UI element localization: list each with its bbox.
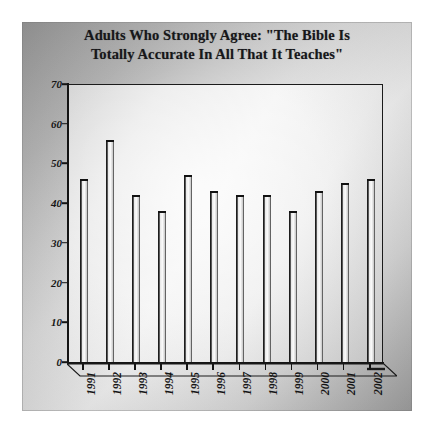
x-axis-tick-mark	[82, 364, 84, 370]
x-axis-tick-mark	[108, 364, 110, 370]
x-axis-line	[67, 362, 384, 364]
x-axis-tick-mark	[160, 364, 162, 370]
x-axis-tick-mark	[343, 364, 345, 370]
x-axis-tick-label-1999: 1999	[293, 372, 305, 395]
x-axis-tick-mark	[212, 364, 214, 370]
chart-panel: Adults Who Strongly Agree: "The Bible Is…	[22, 22, 412, 411]
y-axis-tick-mark	[62, 321, 67, 323]
bar-1992	[106, 140, 114, 362]
bar-1994	[158, 211, 166, 362]
bar-1998	[263, 195, 271, 362]
x-axis-tick-label-2002: 2002	[372, 372, 384, 395]
bar-1999	[289, 211, 297, 362]
chart-title: Adults Who Strongly Agree: "The Bible Is…	[22, 26, 412, 64]
y-axis-tick-mark	[62, 202, 67, 204]
x-axis-tick-label-1998: 1998	[267, 372, 279, 395]
chart-title-line-2: Totally Accurate In All That It Teaches"	[22, 45, 412, 64]
x-axis-tick-label-1994: 1994	[163, 372, 175, 395]
x-axis-tick-labels: 1991199219931994199519961997199819992000…	[69, 372, 382, 421]
y-axis-tick-label: 60	[51, 118, 62, 130]
x-axis-tick-mark	[265, 364, 267, 370]
x-axis-tick-mark	[291, 364, 293, 370]
x-axis-tick-mark	[186, 364, 188, 370]
x-axis-tick-mark	[317, 364, 319, 370]
x-axis-tick-label-1991: 1991	[85, 372, 97, 395]
bar-1997	[236, 195, 244, 362]
y-axis-tick-mark	[62, 83, 67, 85]
y-axis-tick-label: 40	[51, 197, 62, 209]
bar-2000	[315, 191, 323, 362]
bar-1993	[132, 195, 140, 362]
y-axis-tick-label: 30	[51, 237, 62, 249]
x-axis-tick-label-2001: 2001	[345, 372, 357, 395]
y-axis-tick-mark	[62, 163, 67, 165]
y-axis-tick-mark	[62, 242, 67, 244]
y-axis-tick-label: 70	[51, 78, 62, 90]
x-axis-tick-label-1996: 1996	[215, 372, 227, 395]
x-axis-tick-mark	[239, 364, 241, 370]
y-axis-tick-label: 20	[51, 277, 62, 289]
bars-layer	[69, 84, 382, 362]
x-axis-tick-label-2000: 2000	[319, 372, 331, 395]
y-axis-tick-label: 50	[51, 157, 62, 169]
x-axis-tick-label-1992: 1992	[111, 372, 123, 395]
y-axis-tick-mark	[62, 123, 67, 125]
x-axis-tick-mark	[369, 364, 371, 370]
x-axis-tick-label-1993: 1993	[137, 372, 149, 395]
bar-2001	[341, 183, 349, 362]
chart-title-line-1: Adults Who Strongly Agree: "The Bible Is	[22, 26, 412, 45]
y-axis-tick-labels: 010203040506070	[22, 22, 62, 421]
y-axis-tick-mark	[62, 361, 67, 363]
bar-2002	[367, 179, 375, 362]
y-axis-tick-mark	[62, 282, 67, 284]
bar-1991	[80, 179, 88, 362]
x-axis-tick-label-1997: 1997	[241, 372, 253, 395]
x-axis-tick-mark	[134, 364, 136, 370]
x-axis-tick-label-1995: 1995	[189, 372, 201, 395]
bar-1995	[184, 175, 192, 362]
y-axis-tick-label: 10	[51, 316, 62, 328]
bar-1996	[210, 191, 218, 362]
